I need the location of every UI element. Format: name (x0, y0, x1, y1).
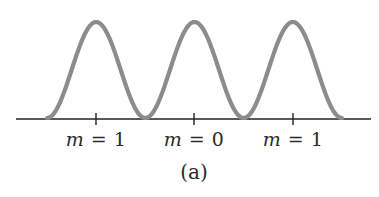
order-label-center: m = 0 (149, 128, 239, 150)
order-variable: m (66, 128, 85, 150)
order-value: = 1 (84, 128, 126, 150)
order-variable: m (164, 128, 183, 150)
order-variable: m (263, 128, 282, 150)
order-value: = 0 (182, 128, 224, 150)
intensity-pattern-figure: m = 1 m = 0 m = 1 (a) (0, 0, 379, 197)
intensity-curve (47, 22, 342, 118)
order-label-right: m = 1 (248, 128, 338, 150)
order-label-left: m = 1 (51, 128, 141, 150)
figure-caption: (a) (164, 160, 224, 184)
order-value: = 1 (281, 128, 323, 150)
